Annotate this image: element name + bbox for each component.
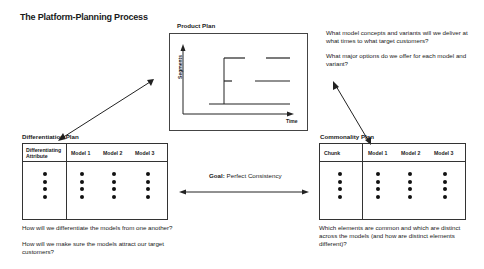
- goal-prefix: Goal:: [209, 172, 225, 179]
- ellipsis-dots: [80, 172, 84, 202]
- ellipsis-dots: [443, 172, 447, 202]
- ellipsis-dots: [146, 172, 150, 202]
- ellipsis-dots: [376, 172, 380, 202]
- differentiation-question-2: How will we make sure the models attract…: [22, 240, 172, 256]
- commonality-plan-label: Commonality Plan: [320, 133, 374, 140]
- column-header: Model 3: [434, 150, 453, 156]
- ellipsis-dots: [408, 172, 412, 202]
- column-header: Differentiating Attribute: [26, 147, 66, 159]
- differentiation-question-1: How will we differentiate the models fro…: [22, 224, 182, 232]
- goal-value: Perfect Consistency: [227, 172, 282, 179]
- commonality-plan-table: Chunk Model 1 Model 2 Model 3: [319, 143, 466, 220]
- column-header: Model 1: [368, 150, 387, 156]
- column-header: Model 1: [71, 150, 90, 156]
- differentiation-plan-label: Differentiation Plan: [22, 133, 79, 140]
- commonality-question-1: Which elements are common and which are …: [319, 224, 469, 248]
- column-header: Model 2: [103, 150, 122, 156]
- ellipsis-dots: [112, 172, 116, 202]
- ellipsis-dots: [43, 172, 47, 202]
- column-header: Model 3: [135, 150, 154, 156]
- differentiation-plan-table: Differentiating Attribute Model 1 Model …: [22, 143, 168, 220]
- column-header: Model 2: [401, 150, 420, 156]
- goal-text: Goal: Perfect Consistency: [209, 172, 282, 179]
- column-header: Chunk: [324, 150, 340, 156]
- ellipsis-dots: [338, 172, 342, 202]
